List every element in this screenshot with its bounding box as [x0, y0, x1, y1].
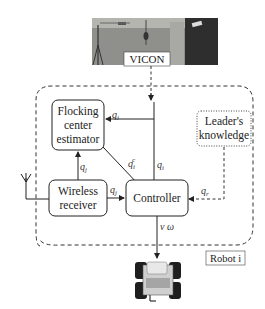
flocking-control-diagram: VICON Flocking center estimator Leader's… — [0, 0, 265, 309]
label-qi-controller: qi — [157, 159, 164, 172]
robot-icon — [135, 262, 181, 301]
vicon-label: VICON — [130, 53, 165, 65]
leaders-knowledge-line-2: knowledge — [199, 129, 249, 142]
label-qr: qr — [201, 185, 209, 198]
label-qj-estimator: qj — [80, 161, 87, 174]
leaders-knowledge-line-1: Leader's — [205, 115, 244, 127]
estimator-line-1: Flocking — [58, 105, 99, 118]
controller-label: Controller — [133, 192, 180, 204]
label-qj-controller: qj — [110, 184, 117, 197]
label-v-omega: v ω — [160, 221, 174, 232]
antenna-icon — [21, 173, 49, 199]
wireless-receiver-line-2: receiver — [59, 199, 96, 211]
estimator-line-2: center — [64, 119, 92, 131]
robot-label: Robot i — [210, 253, 241, 264]
label-qic: qic — [128, 156, 136, 171]
label-qi-estimator: qi — [112, 109, 119, 122]
wireless-receiver-line-1: Wireless — [58, 185, 98, 197]
estimator-line-3: estimator — [57, 133, 100, 145]
